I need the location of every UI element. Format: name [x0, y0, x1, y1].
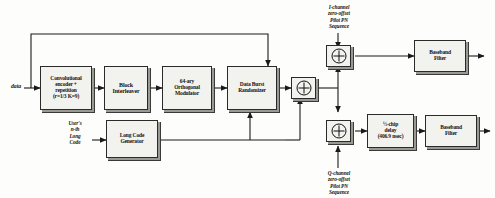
xor-gate-q-channel[interactable]: [326, 120, 351, 142]
data-input-label: data: [6, 83, 26, 90]
block-diagram-canvas: data User's n-th Long Code I-channel zer…: [0, 0, 495, 198]
conv-line-4: (r=1/3 K=9): [50, 94, 81, 100]
modulator-line-3: Modulator: [174, 91, 200, 97]
bbfilter-q-line-2: Filter: [440, 131, 462, 137]
randomizer-line-2: Randomizer: [238, 88, 266, 94]
q-channel-pn-label: Q-channel zero-offset Pilot PN Sequence: [308, 170, 370, 195]
xor-symbol-icon: [331, 49, 346, 64]
xor-gate-long-code[interactable]: [291, 77, 316, 99]
xor-symbol-icon: [331, 124, 346, 139]
halfchip-line-3: (406.9 nsec): [378, 134, 404, 140]
longcode-line-2: Generator: [120, 139, 144, 145]
block-data-burst-randomizer[interactable]: Data Burst Randomizer: [227, 66, 277, 110]
long-code-input-line-4: Code: [58, 139, 92, 145]
block-half-chip-delay[interactable]: ½-chip delay (406.9 nsec): [367, 114, 414, 148]
block-baseband-filter-i[interactable]: Baseband Filter: [414, 40, 466, 72]
interleaver-line-2: Interleaver: [112, 88, 139, 94]
bbfilter-i-line-2: Filter: [429, 56, 451, 62]
block-orthogonal-modulator[interactable]: 64-ary Orthogonal Modulator: [162, 66, 212, 110]
i-pn-line-4: Sequence: [308, 23, 370, 29]
block-baseband-filter-q[interactable]: Baseband Filter: [425, 115, 477, 147]
block-convolutional-encoder[interactable]: Convolutional encoder + repetition (r=1/…: [40, 66, 92, 110]
block-block-interleaver[interactable]: Block Interleaver: [104, 66, 148, 110]
xor-symbol-icon: [296, 81, 311, 96]
xor-gate-i-channel[interactable]: [326, 45, 351, 67]
block-long-code-generator[interactable]: Long Code Generator: [106, 120, 158, 158]
i-channel-pn-label: I-channel zero-offset Pilot PN Sequence: [308, 4, 370, 29]
q-pn-line-4: Sequence: [308, 189, 370, 195]
long-code-input-label: User's n-th Long Code: [58, 120, 92, 145]
